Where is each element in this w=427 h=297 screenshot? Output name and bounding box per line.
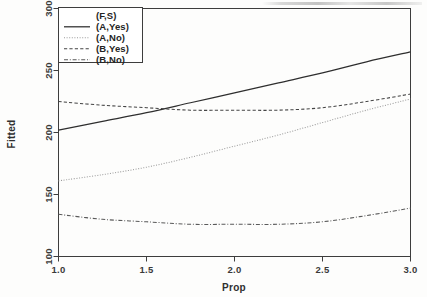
x-tick-label: 2.5 bbox=[316, 264, 330, 275]
y-axis-title: Fitted bbox=[6, 119, 17, 148]
legend-label-ano: (A,No) bbox=[96, 32, 125, 43]
fitted-vs-prop-line-chart: 100150200250300 1.01.52.02.53.0 Fitted P… bbox=[0, 0, 427, 297]
legend-label-bno: (B,No) bbox=[96, 54, 125, 65]
series-group bbox=[59, 52, 411, 225]
legend-title: (F,S) bbox=[96, 10, 117, 21]
series-line-ano bbox=[59, 99, 411, 181]
x-tick-label: 1.0 bbox=[52, 264, 66, 275]
y-tick-label: 150 bbox=[43, 186, 54, 202]
y-axis-tick-labels: 100150200250300 bbox=[43, 0, 54, 264]
series-line-byes bbox=[59, 94, 411, 110]
x-axis-ticks bbox=[59, 257, 411, 262]
legend-label-byes: (B,Yes) bbox=[96, 43, 129, 54]
y-tick-label: 300 bbox=[43, 0, 54, 16]
legend-label-ayes: (A,Yes) bbox=[96, 21, 129, 32]
x-tick-label: 3.0 bbox=[404, 264, 418, 275]
legend: (F,S)(A,Yes)(A,No)(B,Yes)(B,No) bbox=[59, 8, 143, 66]
x-tick-label: 2.0 bbox=[228, 264, 242, 275]
y-axis-ticks bbox=[54, 9, 59, 257]
chart-figure: 100150200250300 1.01.52.02.53.0 Fitted P… bbox=[0, 0, 427, 297]
y-tick-label: 200 bbox=[43, 124, 54, 140]
series-line-bno bbox=[59, 208, 411, 224]
x-axis-title: Prop bbox=[222, 282, 246, 293]
x-tick-label: 1.5 bbox=[140, 264, 154, 275]
y-tick-label: 100 bbox=[43, 248, 54, 264]
y-tick-label: 250 bbox=[43, 62, 54, 78]
x-axis-tick-labels: 1.01.52.02.53.0 bbox=[52, 264, 418, 275]
